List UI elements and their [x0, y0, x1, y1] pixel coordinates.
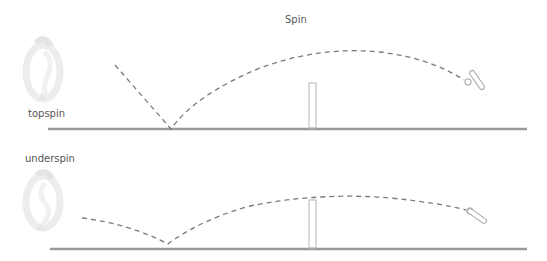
underspin-trajectory [82, 196, 466, 244]
topspin-label: topspin [28, 108, 65, 119]
net-post-bottom [309, 200, 316, 248]
underspin-rotation-icon [26, 172, 60, 231]
underspin-panel [26, 172, 527, 249]
underspin-label: underspin [25, 153, 75, 164]
net-post-top [309, 83, 316, 128]
topspin-rotation-icon [26, 39, 60, 100]
spin-diagram [0, 0, 547, 261]
topspin-trajectory [115, 51, 464, 129]
racket-icon-top [469, 70, 486, 91]
topspin-panel [26, 39, 527, 129]
racket-icon-bottom [467, 208, 488, 225]
ball-icon-top [465, 79, 471, 85]
